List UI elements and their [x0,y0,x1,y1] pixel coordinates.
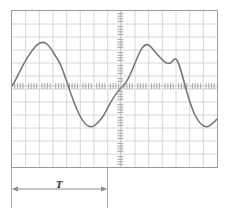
oscilloscope-screen [11,10,218,168]
waveform-trace [12,11,217,167]
figure-root: T [0,0,230,211]
period-dimension [0,168,230,211]
arrow-right-icon [101,187,108,192]
period-label: T [47,178,71,190]
arrow-left-icon [12,187,19,192]
